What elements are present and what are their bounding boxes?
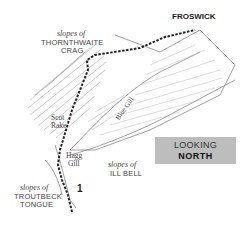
route-marker-1: 1 — [77, 183, 83, 194]
direction-box: LOOKING NORTH — [155, 137, 236, 164]
troutbeck-name-line2: TONGUE — [20, 200, 53, 209]
thornthwaite-name-line2: CRAG — [61, 46, 83, 55]
ill-bell-prefix: slopes of — [108, 160, 136, 169]
thornthwaite-prefix: slopes of — [57, 29, 85, 38]
fell-hatching — [88, 45, 222, 135]
ill-bell-name: ILL BELL — [110, 169, 142, 178]
hagg-gill-line2: Gill — [68, 159, 80, 168]
summit-label: FROSWICK — [172, 12, 216, 21]
route-map: FROSWICK slopes of THORNTHWAITE CRAG Sco… — [0, 0, 251, 225]
direction-line2: NORTH — [155, 151, 236, 162]
direction-line1: LOOKING — [155, 139, 236, 151]
slope-hatching — [28, 45, 106, 138]
troutbeck-prefix: slopes of — [20, 183, 48, 192]
scot-rake-line2: Rake — [51, 121, 66, 130]
